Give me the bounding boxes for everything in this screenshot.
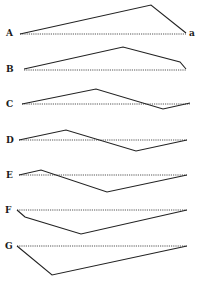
diagram-row-e: E (6, 170, 187, 192)
diagram-row-f: F (5, 205, 187, 234)
row-label: B (6, 64, 14, 74)
solid-path (24, 47, 186, 69)
diagram-row-c: C (6, 89, 190, 109)
diagram-row-a: A (5, 5, 186, 38)
solid-path (17, 210, 187, 234)
solid-path (17, 246, 187, 275)
diagram-rows: ABCDEFG (5, 5, 190, 275)
endpoint-label-a: a (189, 28, 195, 38)
row-label: G (5, 241, 13, 251)
row-label: A (5, 28, 14, 38)
solid-path (20, 5, 186, 34)
solid-path (19, 170, 187, 192)
diagram-row-g: G (5, 241, 187, 275)
row-label: D (6, 135, 14, 145)
diagram-row-d: D (6, 130, 187, 151)
row-label: E (6, 170, 13, 180)
diagram-row-b: B (6, 47, 186, 74)
solid-path (22, 89, 190, 109)
row-label: F (5, 205, 12, 215)
polygon-diagram: ABCDEFG a (0, 0, 197, 298)
row-label: C (6, 99, 13, 109)
